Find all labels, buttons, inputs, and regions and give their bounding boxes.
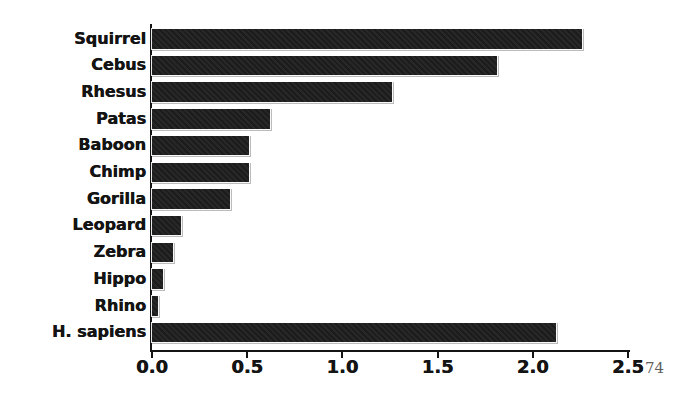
category-label-cebus: Cebus [0, 55, 146, 75]
x-axis-tick-label-2-0: 2.0 [503, 356, 563, 377]
category-label-rhino: Rhino [0, 296, 146, 316]
bar-hippo [152, 269, 163, 289]
category-label-h-sapiens: H. sapiens [0, 322, 146, 342]
bar-gorilla [152, 189, 230, 209]
category-label-chimp: Chimp [0, 162, 146, 182]
category-label-leopard: Leopard [0, 215, 146, 235]
bar-squirrel [152, 29, 582, 49]
bar-leopard [152, 216, 181, 236]
bar-chimp [152, 163, 249, 183]
category-label-squirrel: Squirrel [0, 29, 146, 49]
category-label-gorilla: Gorilla [0, 189, 146, 209]
category-label-zebra: Zebra [0, 242, 146, 262]
category-label-baboon: Baboon [0, 135, 146, 155]
category-label-rhesus: Rhesus [0, 82, 146, 102]
bar-rhesus [152, 82, 392, 102]
x-axis-line [150, 350, 630, 352]
bar-baboon [152, 136, 249, 156]
bar-chart-figure: 74 SquirrelCebusRhesusPatasBaboonChimpGo… [0, 0, 697, 403]
bar-rhino [152, 296, 158, 316]
bar-patas [152, 109, 270, 129]
x-axis-tick-label-2-5: 2.5 [598, 356, 658, 377]
x-axis-tick-label-0-5: 0.5 [217, 356, 277, 377]
x-axis-tick-label-1-5: 1.5 [408, 356, 468, 377]
x-axis-tick-label-0-0: 0.0 [122, 356, 182, 377]
bar-h-sapiens [152, 323, 556, 343]
category-label-hippo: Hippo [0, 269, 146, 289]
x-axis-tick-label-1-0: 1.0 [312, 356, 372, 377]
bar-cebus [152, 56, 497, 76]
bar-zebra [152, 243, 173, 263]
category-label-patas: Patas [0, 109, 146, 129]
